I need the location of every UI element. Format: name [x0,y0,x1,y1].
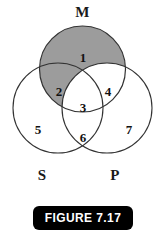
figure-container: M S P 1 2 3 4 5 6 7 FIGURE 7.17 [0,0,165,243]
region-number-6: 6 [76,131,90,144]
figure-caption-text: FIGURE 7.17 [45,212,121,224]
region-number-5: 5 [31,123,45,136]
region-number-7: 7 [122,123,136,136]
figure-caption-box: FIGURE 7.17 [33,206,133,230]
set-label-m: M [0,5,165,20]
set-label-s: S [33,168,51,183]
set-label-p: P [106,168,124,183]
region-number-4: 4 [101,85,115,98]
region-number-3: 3 [76,101,90,114]
region-number-1: 1 [76,51,90,64]
region-number-2: 2 [52,85,66,98]
